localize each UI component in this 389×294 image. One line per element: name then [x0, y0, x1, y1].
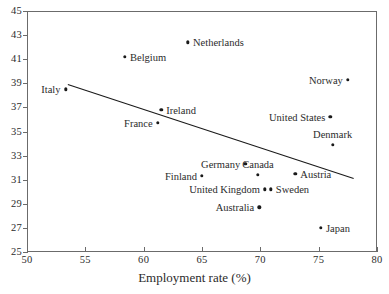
x-axis-tick-label: 70	[255, 254, 266, 265]
x-axis-tick-label: 55	[80, 254, 91, 265]
data-point-label: Australia	[216, 202, 255, 213]
data-point-label: Japan	[326, 222, 350, 233]
x-axis-tick-label: 75	[313, 254, 324, 265]
y-axis-tick-mark	[23, 59, 28, 60]
x-axis-tick-label: 50	[21, 254, 32, 265]
data-point-label: United States	[269, 112, 325, 123]
y-axis-tick-mark	[23, 252, 28, 253]
data-point-label: Sweden	[276, 184, 309, 195]
x-axis-tick-mark	[319, 247, 320, 252]
data-point-label: Denmark	[313, 128, 352, 139]
data-point-label: United Kingdom	[189, 184, 260, 195]
data-point-label: Italy	[41, 84, 60, 95]
x-axis-tick-mark	[144, 247, 145, 252]
y-axis-tick-mark	[23, 132, 28, 133]
data-point-label: Belgium	[130, 51, 166, 62]
data-point-label: France	[124, 118, 153, 129]
x-axis-tick-mark	[260, 247, 261, 252]
data-point-label: Norway	[309, 74, 343, 85]
x-axis-tick-mark	[377, 247, 378, 252]
y-axis-tick-mark	[23, 107, 28, 108]
data-point-label: Canada	[242, 158, 274, 169]
x-axis-tick-mark	[27, 247, 28, 252]
y-axis-tick-mark	[23, 11, 28, 12]
x-axis-tick-mark	[85, 247, 86, 252]
data-point-label: Finland	[165, 171, 197, 182]
data-point-label: Ireland	[166, 104, 196, 115]
data-point-label: Austria	[300, 168, 331, 179]
x-axis-tick-label: 60	[138, 254, 149, 265]
y-axis-tick-mark	[23, 228, 28, 229]
y-axis-tick-mark	[23, 35, 28, 36]
scatter-chart: Employment rate (%) 45434139373533312927…	[0, 0, 389, 294]
y-axis-tick-mark	[23, 180, 28, 181]
x-axis-tick-mark	[202, 247, 203, 252]
y-axis-tick-mark	[23, 83, 28, 84]
y-axis-tick-mark	[23, 204, 28, 205]
x-axis-tick-label: 65	[196, 254, 207, 265]
x-axis-title: Employment rate (%)	[0, 270, 389, 285]
y-axis-tick-mark	[23, 156, 28, 157]
data-point-label: Netherlands	[193, 37, 244, 48]
x-axis-tick-label: 80	[371, 254, 382, 265]
data-point-label: Germany	[201, 159, 240, 170]
